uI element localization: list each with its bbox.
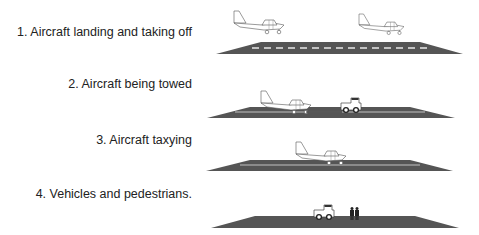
tow-tractor-icon [341,98,361,112]
diagram-canvas [0,0,479,235]
vehicle-icon [314,205,334,219]
scene-4-runway [211,216,459,228]
landing-aircraft-icon [234,11,284,34]
takeoff-aircraft-icon [359,14,404,35]
scene-1-runway [216,42,463,54]
